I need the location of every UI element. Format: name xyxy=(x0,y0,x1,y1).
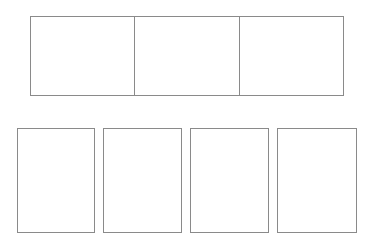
top-cell-2 xyxy=(134,17,238,95)
top-strip xyxy=(30,16,344,96)
bottom-card-2 xyxy=(103,128,182,233)
top-cell-1 xyxy=(31,17,134,95)
top-cell-3 xyxy=(239,17,343,95)
bottom-card-3 xyxy=(190,128,269,233)
bottom-card-1 xyxy=(17,128,95,233)
bottom-card-4 xyxy=(277,128,357,233)
